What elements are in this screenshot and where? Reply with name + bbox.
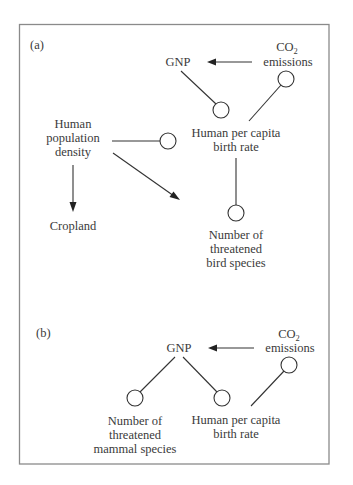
svg-text:Number of: Number of (209, 228, 264, 242)
inhibit-circle-icon (281, 357, 297, 373)
co2-line2: emissions (265, 341, 314, 355)
svg-text:bird species: bird species (206, 256, 265, 270)
svg-text:mammal species: mammal species (94, 442, 177, 456)
arrow-co2-to-gnp-a (207, 59, 252, 66)
co2-main: CO (278, 327, 295, 341)
inhibit-birthrate-to-birds-a (228, 158, 244, 221)
arrow-co2-to-gnp-b (208, 345, 254, 352)
co2-main: CO (276, 40, 293, 54)
inhibit-gnp-to-birthrate-a (181, 71, 229, 118)
svg-text:threatened: threatened (109, 428, 162, 442)
svg-text:Human: Human (55, 117, 93, 131)
node-bird-species-a: Number of threatened bird species (206, 228, 265, 270)
inhibit-birthrate-to-co2-a (249, 71, 294, 121)
arrowhead-icon (208, 345, 217, 352)
svg-text:Human per capita: Human per capita (192, 126, 281, 140)
node-gnp-a: GNP (165, 55, 190, 69)
arrow-density-to-cropland-a (70, 165, 77, 212)
svg-text:birth rate: birth rate (213, 140, 259, 154)
arrowhead-icon (207, 59, 216, 66)
svg-text:population: population (46, 131, 100, 145)
figure-frame (20, 25, 330, 465)
node-cropland-a: Cropland (50, 219, 97, 233)
svg-text:Number of: Number of (108, 414, 163, 428)
panel-a: (a) GNP CO2 emissions Human per capita (30, 38, 313, 270)
inhibit-gnp-to-mammals-b (127, 357, 175, 406)
svg-text:threatened: threatened (210, 242, 263, 256)
inhibit-circle-icon (213, 102, 229, 118)
inhibit-density-to-birthrate-a (112, 133, 176, 149)
causal-diagram: (a) GNP CO2 emissions Human per capita (0, 0, 353, 485)
svg-text:CO2: CO2 (276, 40, 298, 56)
node-gnp-b: GNP (166, 341, 191, 355)
svg-text:birth rate: birth rate (213, 427, 259, 441)
arrowhead-icon (70, 202, 77, 212)
inhibit-circle-icon (278, 71, 294, 87)
node-population-density-a: Human population density (46, 117, 100, 159)
inhibit-circle-icon (160, 133, 176, 149)
svg-text:Human per capita: Human per capita (192, 413, 281, 427)
node-co2-emissions-a: CO2 emissions (263, 40, 312, 69)
inhibit-gnp-to-birthrate-b (183, 357, 230, 406)
arrow-density-to-birds-a (113, 153, 180, 200)
svg-text:density: density (55, 145, 92, 159)
panel-a-label: (a) (30, 38, 44, 52)
panel-b: (b) GNP CO2 emissions (36, 326, 315, 456)
inhibit-circle-icon (214, 390, 230, 406)
node-mammal-species-b: Number of threatened mammal species (94, 414, 177, 456)
node-co2-emissions-b: CO2 emissions (265, 327, 314, 355)
arrowhead-icon (170, 192, 181, 201)
co2-line2: emissions (263, 55, 312, 69)
inhibit-birthrate-to-co2-b (251, 357, 297, 406)
inhibit-circle-icon (228, 205, 244, 221)
inhibit-circle-icon (127, 390, 143, 406)
node-birth-rate-b: Human per capita birth rate (192, 413, 281, 441)
node-birth-rate-a: Human per capita birth rate (192, 126, 281, 154)
panel-b-label: (b) (36, 326, 51, 340)
